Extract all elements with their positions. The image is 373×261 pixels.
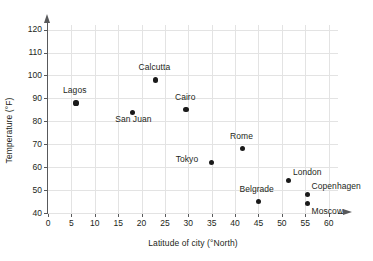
y-tick-label: 40	[18, 208, 42, 218]
data-point	[305, 192, 310, 197]
data-point-label: Tokyo	[176, 154, 198, 164]
data-point-label: Lagos	[63, 85, 86, 95]
plot-area: LagosSan JuanCalcuttaCairoTokyoRomeBelgr…	[48, 25, 338, 213]
x-axis-arrow-icon	[343, 209, 352, 215]
gridline-vertical	[212, 25, 213, 213]
data-point	[256, 199, 261, 204]
data-point	[183, 107, 188, 112]
gridline-horizontal	[48, 121, 338, 122]
x-tick-label: 25	[153, 218, 177, 228]
y-tick-label: 60	[18, 162, 42, 172]
data-point	[240, 146, 245, 151]
data-point-label: London	[293, 167, 322, 177]
gridline-horizontal	[48, 53, 338, 54]
x-tick-label: 60	[317, 218, 341, 228]
data-point-label: Belgrade	[239, 184, 273, 194]
data-point-label: Copenhagen	[312, 181, 361, 191]
gridline-vertical	[71, 25, 72, 213]
data-point-label: San Juan	[115, 114, 151, 124]
x-tick-label: 0	[36, 218, 60, 228]
gridline-horizontal	[48, 213, 338, 214]
data-point	[209, 160, 214, 165]
data-point	[73, 100, 78, 105]
data-point-label: Rome	[230, 131, 253, 141]
x-tick-label: 45	[246, 218, 270, 228]
y-tick-label: 100	[18, 70, 42, 80]
x-tick-label: 5	[59, 218, 83, 228]
gridline-vertical	[95, 25, 96, 213]
x-tick-label: 35	[200, 218, 224, 228]
y-tick-label: 80	[18, 116, 42, 126]
x-tick-label: 40	[223, 218, 247, 228]
data-point-label: Moscow	[312, 206, 343, 216]
y-axis-arrow-icon	[44, 14, 50, 23]
gridline-horizontal	[48, 30, 338, 31]
x-tick-label: 50	[270, 218, 294, 228]
y-tick-label: 110	[18, 47, 42, 57]
data-point	[153, 77, 158, 82]
x-tick-label: 30	[176, 218, 200, 228]
y-tick-label: 50	[18, 185, 42, 195]
x-axis-title: Latitude of city (°North)	[48, 238, 338, 248]
scatter-chart: Temperature (°F) Latitude of city (°Nort…	[0, 0, 373, 261]
gridline-horizontal	[48, 144, 338, 145]
y-axis-title: Temperature (°F)	[0, 0, 18, 261]
data-point-label: Cairo	[175, 92, 196, 102]
gridline-vertical	[282, 25, 283, 213]
gridline-vertical	[188, 25, 189, 213]
y-tick-label: 120	[18, 24, 42, 34]
x-tick-label: 15	[106, 218, 130, 228]
y-tick-label: 70	[18, 139, 42, 149]
data-point-label: Calcutta	[139, 62, 171, 72]
gridline-vertical	[305, 25, 306, 213]
data-point	[286, 178, 291, 183]
gridline-vertical	[235, 25, 236, 213]
data-point	[305, 201, 310, 206]
x-tick-label: 10	[83, 218, 107, 228]
gridline-vertical	[165, 25, 166, 213]
x-tick-label: 20	[130, 218, 154, 228]
x-tick-label: 55	[293, 218, 317, 228]
gridline-horizontal	[48, 190, 338, 191]
y-tick-label: 90	[18, 93, 42, 103]
gridline-horizontal	[48, 75, 338, 76]
